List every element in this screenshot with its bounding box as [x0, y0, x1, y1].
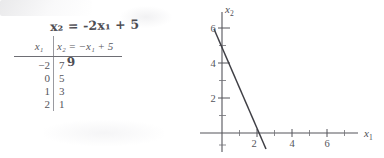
table-cell-x2: 1 [59, 98, 65, 110]
table-cell-x1: 2 [18, 98, 50, 110]
handwritten-equation-text: x₂ = -2x₁ + 5 [50, 17, 140, 34]
graph-svg: 2 4 6 2 4 6 x1 x2 [192, 0, 384, 158]
table-header-x1: x₁ [26, 40, 52, 52]
table-cell-x2: 5 [59, 72, 65, 84]
table-vertical-rule [53, 36, 54, 111]
y-axis-label: x2 [224, 3, 234, 18]
table-cell-x1: 1 [18, 85, 50, 97]
coordinate-graph: 2 4 6 2 4 6 x1 x2 [192, 0, 384, 158]
worksheet-page: x₂ = -2x₁ + 5 x₁ x₂ = −x₁ + 5 −2 7 0 5 1… [0, 0, 384, 158]
table-cell-x2: 7 [59, 59, 65, 71]
table-cell-x1: 0 [18, 72, 50, 84]
handwritten-correction: 9 [66, 55, 76, 70]
x-axis-label: x1 [363, 127, 373, 142]
table-cell-x1: −2 [18, 59, 50, 71]
y-tick-label-4: 4 [210, 58, 216, 69]
y-tick-label-2: 2 [210, 93, 215, 104]
y-tick-label-6: 6 [210, 23, 215, 34]
table-header-equation: x₂ = −x₁ + 5 [57, 40, 113, 52]
x-tick-label-6: 6 [324, 138, 329, 149]
handwritten-equation: x₂ = -2x₁ + 5 [50, 17, 140, 34]
x-tick-label-4: 4 [289, 138, 295, 149]
table-cell-x2: 3 [59, 85, 65, 97]
value-table: x₂ = -2x₁ + 5 x₁ x₂ = −x₁ + 5 −2 7 0 5 1… [0, 0, 192, 158]
x-tick-label-2: 2 [251, 138, 256, 149]
